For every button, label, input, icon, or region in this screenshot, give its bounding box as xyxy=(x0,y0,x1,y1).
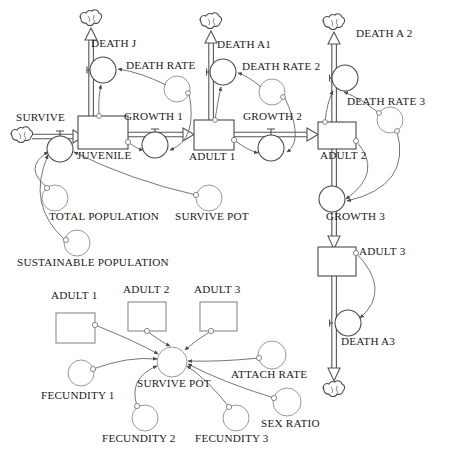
link-death-rate-to-death-j[interactable] xyxy=(118,69,166,85)
var-death-rate-2[interactable] xyxy=(259,79,285,105)
label-survive: SURVIVE xyxy=(16,111,65,123)
label-ghost-adult-1: ADULT 1 xyxy=(51,289,97,301)
label-fecundity-1: FECUNDITY 1 xyxy=(41,389,115,401)
var-fecundity-2[interactable] xyxy=(132,405,158,431)
stock-adult-1[interactable] xyxy=(194,120,234,150)
label-adult-3: ADULT 3 xyxy=(359,245,405,257)
label-survive-pot-lower: SURVIVE POT xyxy=(137,377,211,389)
stock-adult-2[interactable] xyxy=(318,122,356,149)
label-ghost-adult-2: ADULT 2 xyxy=(123,283,169,295)
valve-death-a3[interactable] xyxy=(335,310,361,336)
valve-growth-2[interactable] xyxy=(258,135,284,161)
label-death-rate: DEATH RATE xyxy=(126,59,195,71)
sink-cloud-death-j[interactable] xyxy=(80,10,101,26)
label-ghost-adult-3: ADULT 3 xyxy=(194,283,240,295)
link-adult-1-to-growth-2[interactable] xyxy=(234,140,258,153)
ghost-stock-adult-1[interactable] xyxy=(56,313,95,343)
var-survive-pot-lower[interactable] xyxy=(157,347,187,377)
link-death-rate-2-to-death-a1[interactable] xyxy=(238,73,261,87)
link-adult-1-to-death-a1[interactable] xyxy=(215,87,221,120)
label-death-rate-2: DEATH RATE 2 xyxy=(242,60,320,72)
link-adult-3-to-death-a3[interactable] xyxy=(356,253,375,318)
label-sustainable-population: SUSTAINABLE POPULATION xyxy=(17,256,169,268)
var-sustainable-population[interactable] xyxy=(64,230,90,256)
diagram-canvas xyxy=(0,0,450,455)
stock-juvenile[interactable] xyxy=(78,116,128,149)
label-total-population: TOTAL POPULATION xyxy=(49,210,159,222)
label-adult-1: ADULT 1 xyxy=(189,150,235,162)
label-death-a3: DEATH A3 xyxy=(341,335,395,347)
link-ghost-adult-2-to-survive-pot[interactable] xyxy=(147,331,170,346)
link-total-population-to-survive[interactable] xyxy=(35,152,48,188)
link-juvenile-to-death-j[interactable] xyxy=(99,85,101,116)
valve-growth-1[interactable] xyxy=(142,132,168,158)
label-growth-2: GROWTH 2 xyxy=(243,110,302,122)
link-death-rate-2-to-growth-2[interactable] xyxy=(284,96,295,152)
label-juvenile: JUVENILE xyxy=(77,149,131,161)
ghost-stock-adult-2[interactable] xyxy=(128,302,166,331)
label-death-a1: DEATH A1 xyxy=(217,38,271,50)
sink-cloud-death-a1[interactable] xyxy=(200,13,221,29)
label-attach-rate: ATTACH RATE xyxy=(231,368,307,380)
sink-cloud-death-a3[interactable] xyxy=(323,381,344,397)
valve-death-a1[interactable] xyxy=(210,59,236,85)
label-growth-3: GROWTH 3 xyxy=(326,210,385,222)
label-death-j: DEATH J xyxy=(91,37,136,49)
label-death-rate-3: DEATH RATE 3 xyxy=(347,95,425,107)
var-death-rate[interactable] xyxy=(164,76,190,102)
stock-adult-3[interactable] xyxy=(318,247,356,276)
link-ghost-adult-3-to-survive-pot[interactable] xyxy=(185,331,211,350)
label-fecundity-3: FECUNDITY 3 xyxy=(195,432,269,444)
label-death-a2: DEATH A 2 xyxy=(356,27,413,39)
valve-death-j[interactable] xyxy=(90,57,116,83)
label-sex-ratio: SEX RATIO xyxy=(261,417,320,429)
label-fecundity-2: FECUNDITY 2 xyxy=(102,432,176,444)
var-fecundity-1[interactable] xyxy=(68,360,94,386)
label-adult-2: ADULT 2 xyxy=(320,149,366,161)
label-growth-1: GROWTH 1 xyxy=(124,110,183,122)
var-sex-ratio[interactable] xyxy=(273,388,301,416)
var-attach-rate[interactable] xyxy=(258,341,286,369)
ghost-stock-adult-3[interactable] xyxy=(200,302,237,331)
sink-cloud-death-a2[interactable] xyxy=(323,14,344,30)
valve-death-a2[interactable] xyxy=(332,65,358,91)
link-fecundity-1-to-survive-pot[interactable] xyxy=(93,358,157,369)
valve-survive[interactable] xyxy=(47,136,73,162)
valve-growth-3[interactable] xyxy=(319,186,345,212)
stock-flow-diagram: SURVIVE DEATH J GROWTH 1 DEATH A1 GROWTH… xyxy=(0,0,450,455)
link-attach-rate-to-survive-pot[interactable] xyxy=(188,358,259,361)
label-survive-pot-upper: SURVIVE POT xyxy=(175,210,249,222)
source-cloud-survive[interactable] xyxy=(11,127,32,143)
var-survive-pot-upper[interactable] xyxy=(196,185,222,211)
